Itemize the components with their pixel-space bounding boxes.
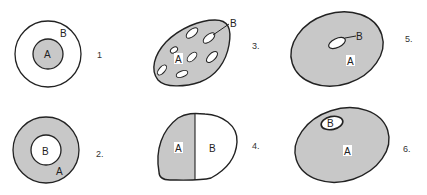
panel-1: A B 1 — [15, 21, 102, 87]
label-a: A — [344, 146, 351, 157]
ellipse-a — [281, 0, 393, 98]
panel-5: B A 5. — [281, 0, 412, 98]
label-b: B — [60, 28, 67, 39]
label-a: A — [44, 49, 51, 60]
label-b: B — [356, 31, 363, 42]
label-b: B — [209, 143, 216, 154]
panel-number: 2. — [96, 149, 104, 159]
label-b: B — [230, 18, 237, 29]
set-relations-diagram: A B 1 B A 2. B A 3. — [0, 0, 427, 195]
label-a: A — [175, 143, 182, 154]
panel-number: 6. — [403, 144, 411, 154]
panel-number: 5. — [405, 34, 413, 44]
ellipse-a — [285, 96, 399, 194]
panel-number: 1 — [97, 50, 102, 60]
label-a: A — [56, 166, 63, 177]
panel-number: 3. — [252, 41, 260, 51]
panel-6: B A 6. — [285, 96, 410, 194]
label-b: B — [327, 118, 334, 129]
panel-4: A B 4. — [150, 110, 260, 185]
label-a: A — [347, 56, 354, 67]
region-a — [150, 110, 195, 185]
region-b — [195, 110, 245, 185]
panel-number: 4. — [252, 141, 260, 151]
panel-2: B A 2. — [13, 117, 104, 183]
label-b: B — [42, 146, 49, 157]
panel-3: B A 3. — [154, 18, 260, 86]
label-a: A — [175, 54, 182, 65]
